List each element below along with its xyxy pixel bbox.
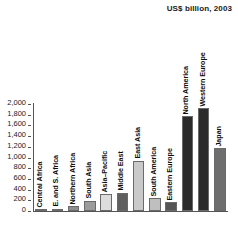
bar[interactable] bbox=[52, 209, 64, 211]
bar[interactable] bbox=[35, 209, 47, 211]
y-axis-tick-label: 1,000 bbox=[7, 153, 26, 161]
y-axis-tick-labels: 02004006008001,0001,2001,4001,6001,8002,… bbox=[0, 104, 31, 211]
bar[interactable] bbox=[198, 108, 210, 211]
bar-group: South Asia bbox=[84, 104, 96, 211]
bar-group: Asia–Pacific bbox=[100, 104, 112, 211]
y-axis-tick-label: 1,400 bbox=[7, 131, 26, 139]
y-axis-tick-mark bbox=[28, 200, 31, 201]
y-axis-tick-mark bbox=[28, 115, 31, 116]
bar-category-label: North America bbox=[183, 66, 191, 115]
y-axis-tick-mark bbox=[28, 190, 31, 191]
bar-group: South America bbox=[149, 104, 161, 211]
y-axis-tick-mark bbox=[28, 125, 31, 126]
bar[interactable] bbox=[117, 193, 129, 211]
bar-group: Middle East bbox=[117, 104, 129, 211]
bar-category-label: South America bbox=[150, 147, 158, 197]
bar-category-label: South Asia bbox=[85, 162, 93, 199]
bar-group: E. and S. Africa bbox=[52, 104, 64, 211]
x-axis-line bbox=[33, 211, 228, 212]
y-axis-tick-mark bbox=[28, 168, 31, 169]
y-axis-tick-mark bbox=[28, 104, 31, 105]
chart-title: US$ billion, 2003 bbox=[167, 4, 232, 13]
y-axis-tick-label: 600 bbox=[13, 174, 26, 182]
bar-category-label: East Asia bbox=[134, 127, 142, 159]
bar-category-label: Japan bbox=[215, 126, 223, 147]
bar-category-label: Western Europe bbox=[199, 52, 207, 106]
y-axis-tick-label: 400 bbox=[13, 185, 26, 193]
bar-group: Western Europe bbox=[198, 104, 210, 211]
y-axis-tick-label: 2,000 bbox=[7, 99, 26, 107]
y-axis-tick-label: 1,800 bbox=[7, 110, 26, 118]
y-axis-tick-mark bbox=[28, 136, 31, 137]
y-axis-tick-mark bbox=[28, 158, 31, 159]
bar[interactable] bbox=[165, 202, 177, 211]
bar[interactable] bbox=[68, 206, 80, 211]
y-axis-tick-mark bbox=[28, 179, 31, 180]
chart-figure: US$ billion, 2003 02004006008001,0001,20… bbox=[0, 0, 238, 234]
y-axis-tick-label: 0 bbox=[22, 206, 26, 214]
bar-group: Northern Africa bbox=[68, 104, 80, 211]
bar[interactable] bbox=[133, 161, 145, 211]
bar-category-label: E. and S. Africa bbox=[53, 155, 61, 207]
bar[interactable] bbox=[182, 116, 194, 211]
bar-group: Japan bbox=[214, 104, 226, 211]
bar-group: Central Africa bbox=[35, 104, 47, 211]
y-axis-tick-label: 800 bbox=[13, 163, 26, 171]
bar-category-label: Asia–Pacific bbox=[101, 151, 109, 193]
y-axis-tick-label: 1,600 bbox=[7, 120, 26, 128]
bar-group: East Asia bbox=[133, 104, 145, 211]
bar-category-label: Eastern Europe bbox=[166, 148, 174, 200]
bar[interactable] bbox=[100, 194, 112, 211]
bar[interactable] bbox=[149, 198, 161, 211]
bar-group: Eastern Europe bbox=[165, 104, 177, 211]
bar-category-label: Middle East bbox=[118, 151, 126, 190]
bar[interactable] bbox=[214, 148, 226, 211]
y-axis-tick-mark bbox=[28, 147, 31, 148]
bar-series: Central AfricaE. and S. AfricaNorthern A… bbox=[33, 104, 228, 211]
bar-category-label: Central Africa bbox=[36, 162, 44, 208]
y-axis-tick-label: 1,200 bbox=[7, 142, 26, 150]
y-axis-tick-mark bbox=[28, 211, 31, 212]
bar-group: North America bbox=[182, 104, 194, 211]
bar-category-label: Northern Africa bbox=[69, 153, 77, 205]
bar[interactable] bbox=[84, 201, 96, 211]
y-axis-tick-label: 200 bbox=[13, 195, 26, 203]
